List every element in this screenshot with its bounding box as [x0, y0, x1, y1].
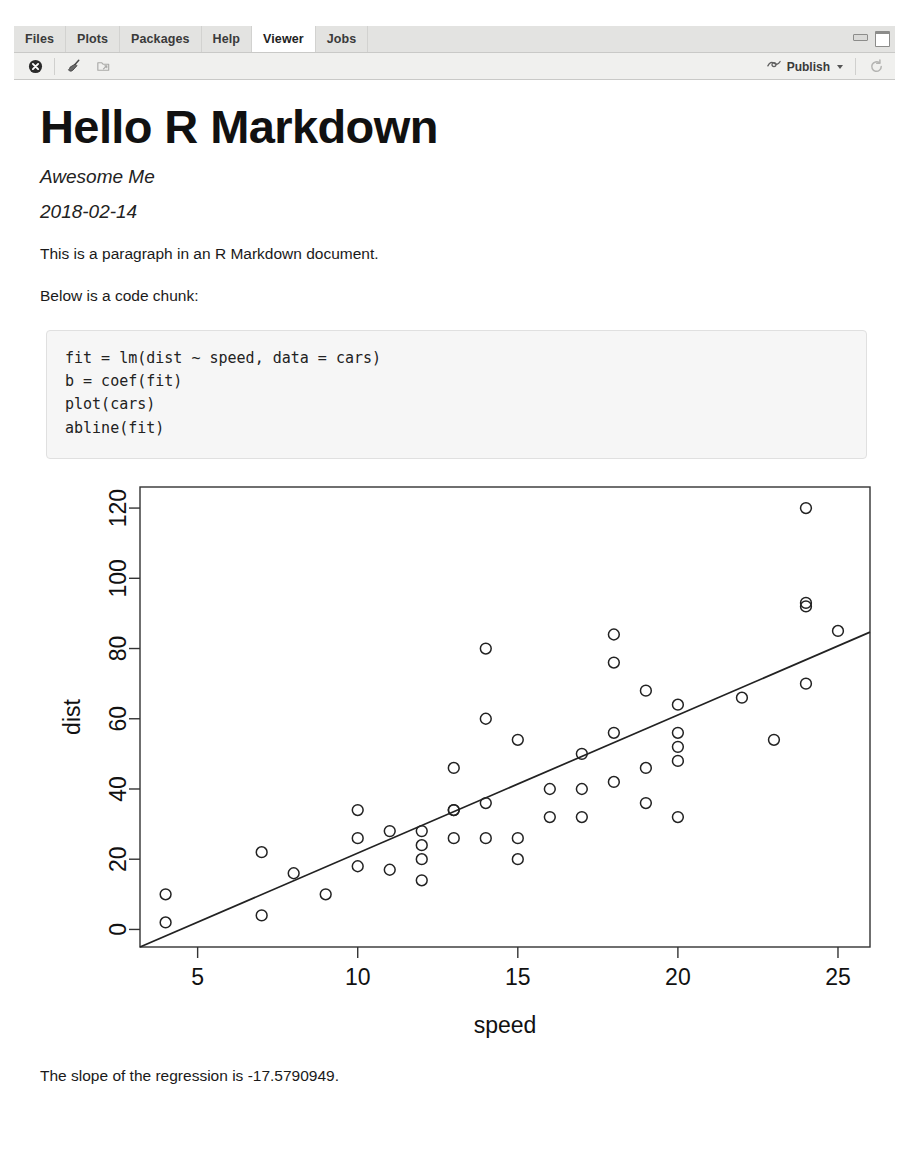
- data-point: [672, 755, 683, 766]
- data-point: [512, 833, 523, 844]
- x-tick-label: 25: [825, 964, 851, 990]
- data-point: [352, 861, 363, 872]
- tab-help[interactable]: Help: [202, 26, 253, 52]
- paragraph-intro: This is a paragraph in an R Markdown doc…: [40, 243, 873, 265]
- tab-files-label: Files: [25, 32, 54, 46]
- viewer-toolbar: Publish: [14, 53, 895, 80]
- x-tick-label: 5: [191, 964, 204, 990]
- page-title: Hello R Markdown: [40, 102, 873, 152]
- refresh-icon[interactable]: [863, 56, 889, 77]
- document-author: Awesome Me: [40, 166, 873, 188]
- tab-packages[interactable]: Packages: [120, 26, 201, 52]
- x-tick-label: 10: [345, 964, 371, 990]
- toolbar-separator-right: [855, 58, 856, 75]
- y-tick-label: 60: [105, 706, 131, 732]
- y-tick-label: 0: [105, 923, 131, 936]
- data-point: [576, 783, 587, 794]
- data-point: [352, 833, 363, 844]
- data-point: [672, 741, 683, 752]
- data-point: [672, 727, 683, 738]
- pane-tab-strip: Files Plots Packages Help Viewer Jobs: [14, 26, 895, 53]
- tab-plots[interactable]: Plots: [66, 26, 120, 52]
- data-point: [352, 804, 363, 815]
- publish-icon: [766, 58, 782, 75]
- y-axis-label: dist: [59, 698, 85, 734]
- data-point: [672, 811, 683, 822]
- toolbar-left-group: [22, 56, 116, 77]
- tab-packages-label: Packages: [131, 32, 189, 46]
- data-point: [512, 734, 523, 745]
- data-point: [672, 699, 683, 710]
- plot-data-points: [160, 502, 843, 927]
- tab-plots-label: Plots: [77, 32, 108, 46]
- data-point: [608, 776, 619, 787]
- x-tick-label: 20: [665, 964, 691, 990]
- data-point: [608, 727, 619, 738]
- data-point: [544, 811, 555, 822]
- toolbar-separator: [54, 58, 55, 75]
- data-point: [801, 678, 812, 689]
- data-point: [288, 868, 299, 879]
- data-point: [320, 889, 331, 900]
- data-point: [256, 910, 267, 921]
- publish-label: Publish: [787, 60, 830, 74]
- tab-list: Files Plots Packages Help Viewer Jobs: [14, 26, 895, 52]
- data-point: [640, 797, 651, 808]
- document-content: Hello R Markdown Awesome Me 2018-02-14 T…: [14, 80, 895, 1085]
- data-point: [448, 833, 459, 844]
- data-point: [384, 825, 395, 836]
- data-point: [416, 875, 427, 886]
- data-point: [640, 685, 651, 696]
- document-date: 2018-02-14: [40, 201, 873, 223]
- window-controls: [852, 30, 889, 44]
- plot-canvas: 510152025020406080100120 speeddist: [40, 479, 895, 1059]
- code-chunk: fit = lm(dist ~ speed, data = cars) b = …: [46, 330, 867, 459]
- data-point: [833, 625, 844, 636]
- y-tick-label: 40: [105, 776, 131, 802]
- data-point: [160, 917, 171, 928]
- data-point: [801, 502, 812, 513]
- data-point: [256, 847, 267, 858]
- x-axis-label: speed: [474, 1012, 537, 1038]
- publish-button[interactable]: Publish: [761, 56, 848, 77]
- x-tick-label: 15: [505, 964, 531, 990]
- regression-line-segment: [140, 632, 870, 947]
- chevron-down-icon[interactable]: [837, 65, 843, 69]
- data-point: [737, 692, 748, 703]
- data-point: [480, 713, 491, 724]
- toolbar-right-group: Publish: [761, 56, 889, 77]
- maximize-window-icon[interactable]: [874, 30, 889, 44]
- broom-clear-icon[interactable]: [61, 56, 87, 77]
- export-save-icon[interactable]: [90, 56, 116, 77]
- stop-circle-icon[interactable]: [22, 56, 48, 77]
- closing-paragraph: The slope of the regression is -17.57909…: [40, 1067, 873, 1085]
- data-point: [160, 889, 171, 900]
- regression-line: [140, 632, 870, 947]
- y-tick-label: 100: [105, 559, 131, 597]
- data-point: [608, 657, 619, 668]
- data-point: [640, 762, 651, 773]
- tab-jobs[interactable]: Jobs: [316, 26, 369, 52]
- minimize-window-icon[interactable]: [852, 30, 867, 44]
- tab-viewer[interactable]: Viewer: [252, 26, 316, 52]
- data-point: [512, 854, 523, 865]
- data-point: [608, 629, 619, 640]
- data-point: [416, 840, 427, 851]
- tab-jobs-label: Jobs: [327, 32, 357, 46]
- data-point: [384, 864, 395, 875]
- y-tick-label: 20: [105, 846, 131, 872]
- data-point: [769, 734, 780, 745]
- tab-viewer-label: Viewer: [263, 32, 304, 46]
- tab-help-label: Help: [213, 32, 241, 46]
- y-tick-label: 80: [105, 635, 131, 661]
- tab-files[interactable]: Files: [14, 26, 66, 52]
- data-point: [416, 854, 427, 865]
- data-point: [576, 811, 587, 822]
- rstudio-viewer-pane: Files Plots Packages Help Viewer Jobs: [0, 0, 909, 1169]
- paragraph-code-intro: Below is a code chunk:: [40, 285, 873, 307]
- data-point: [544, 783, 555, 794]
- scatter-plot: 510152025020406080100120 speeddist: [40, 479, 895, 1059]
- y-tick-label: 120: [105, 489, 131, 527]
- viewer-document: Hello R Markdown Awesome Me 2018-02-14 T…: [14, 80, 895, 1155]
- data-point: [448, 762, 459, 773]
